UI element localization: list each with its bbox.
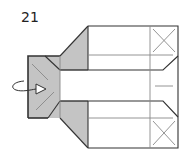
x-marks <box>153 29 175 145</box>
origami-diagram <box>0 0 190 156</box>
